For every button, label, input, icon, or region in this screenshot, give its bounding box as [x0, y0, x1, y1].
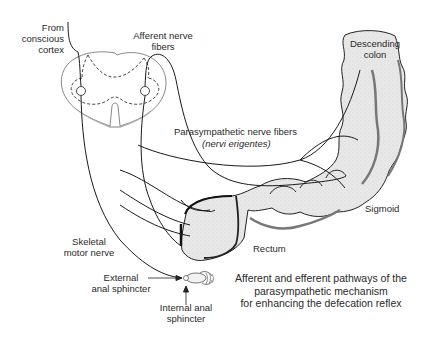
label-line: Internal anal	[158, 302, 214, 313]
label-line: conscious	[20, 33, 64, 44]
anal-sphincters	[184, 272, 214, 285]
label-line: fibers	[128, 41, 198, 52]
label-parasympathetic-fibers: Parasympathetic nerve fibers	[174, 126, 297, 137]
label-nervi-erigentes: (nervi erigentes)	[202, 138, 271, 149]
label-skeletal-motor-nerve: Skeletal motor nerve	[62, 236, 116, 258]
label-afferent-fibers: Afferent nerve fibers	[128, 30, 198, 52]
caption-line: for enhancing the defecation reflex	[230, 297, 412, 310]
label-line: cortex	[20, 44, 64, 55]
label-line: motor nerve	[62, 247, 116, 258]
caption-line: parasympathetic mechanism	[230, 285, 412, 298]
label-internal-anal-sphincter: Internal anal sphincter	[158, 302, 214, 324]
label-line: From	[20, 22, 64, 33]
caption-line: Afferent and efferent pathways of the	[230, 272, 412, 285]
label-line: External	[90, 272, 152, 283]
label-external-anal-sphincter: External anal sphincter	[90, 272, 152, 294]
label-line: colon	[348, 49, 402, 60]
diagram-caption: Afferent and efferent pathways of the pa…	[230, 272, 412, 310]
label-descending-colon: Descending colon	[348, 38, 402, 60]
label-sigmoid: Sigmoid	[365, 203, 399, 214]
pointer-arrows	[148, 276, 189, 306]
label-line: Afferent nerve	[128, 30, 198, 41]
label-line: Skeletal	[62, 236, 116, 247]
label-line: anal sphincter	[90, 283, 152, 294]
label-rectum: Rectum	[253, 243, 286, 254]
label-line: sphincter	[158, 313, 214, 324]
label-line: Descending	[348, 38, 402, 49]
spinal-cord-section	[61, 52, 166, 127]
label-from-cortex: From conscious cortex	[20, 22, 64, 55]
